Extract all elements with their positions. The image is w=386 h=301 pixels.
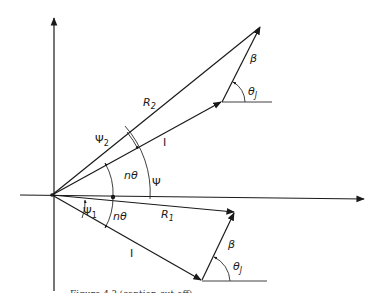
lower-thetaJ-arc — [214, 257, 230, 281]
label-ntheta-lower: nθ — [113, 210, 127, 223]
vertex-dot — [111, 195, 115, 199]
label-R1: R1 — [161, 208, 174, 223]
ntheta-upper-arc — [105, 163, 113, 197]
ntheta-lower-arc — [105, 197, 113, 228]
label-psi: Ψ — [152, 176, 161, 189]
origin-dot — [50, 193, 54, 197]
lower-I-vector — [52, 195, 201, 280]
phasor-diagram: R2 I β θJ Ψ2 nθ Ψ Ψ1 nθ R1 I β θJ — [0, 0, 386, 301]
label-thetaJ-upper: θJ — [248, 85, 258, 100]
label-thetaJ-lower: θJ — [233, 260, 243, 275]
R2-vector — [52, 28, 259, 195]
label-psi2: Ψ2 — [95, 133, 109, 148]
label-R2: R2 — [143, 96, 156, 111]
label-I-lower: I — [130, 247, 133, 260]
label-ntheta-upper: nθ — [124, 169, 138, 182]
psi2-arc — [127, 132, 138, 149]
label-beta-upper: β — [249, 52, 257, 65]
label-I-upper: I — [163, 136, 166, 149]
label-psi1: Ψ1 — [83, 205, 97, 220]
upper-thetaJ-arc — [233, 82, 245, 102]
psi-arc — [125, 126, 150, 199]
label-beta-lower: β — [227, 238, 235, 251]
